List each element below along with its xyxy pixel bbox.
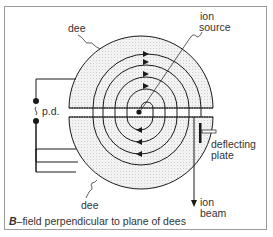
cyclotron-diagram (0, 0, 273, 237)
ion-source-dot (136, 109, 141, 114)
label-ion-beam-2: beam (200, 208, 226, 219)
deflecting-plate (199, 123, 202, 143)
caption: B–field perpendicular to plane of dees (9, 216, 186, 227)
label-ion-source-2: source (199, 22, 231, 33)
label-pd: p.d. (42, 106, 60, 117)
caption-text: –field perpendicular to plane of dees (17, 215, 186, 227)
label-dee-bottom: dee (81, 200, 99, 211)
caption-bold: B (9, 215, 17, 227)
label-deflecting-2: plate (211, 150, 234, 161)
ion-beam-arrow-icon (191, 200, 197, 207)
label-dee-top: dee (68, 23, 86, 34)
dee-top (69, 36, 213, 108)
